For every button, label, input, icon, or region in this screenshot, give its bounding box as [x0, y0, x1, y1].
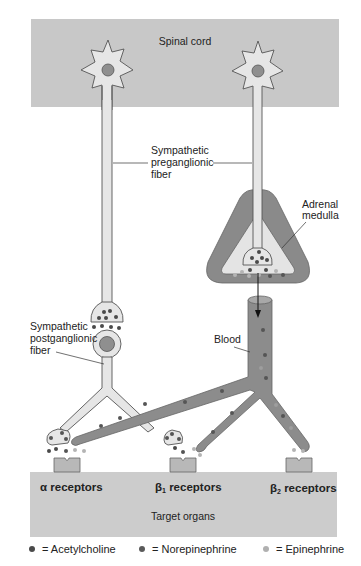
legend-acetylcholine-label: = Acetylcholine	[42, 543, 116, 555]
acetylcholine-dot-icon	[29, 546, 35, 552]
postganglionic-nucleus	[100, 337, 115, 352]
alpha-released-transmitters	[47, 447, 86, 453]
alpha-receptor-shape	[54, 458, 80, 472]
alpha-receptors-label: α receptors	[40, 481, 103, 493]
ganglion-released-ach	[92, 324, 121, 330]
legend: = Acetylcholine = Norepinephrine = Epine…	[0, 543, 361, 561]
left-soma-nucleus	[102, 64, 114, 76]
legend-acetylcholine: = Acetylcholine	[29, 543, 116, 555]
legend-epinephrine: = Epinephrine	[263, 543, 344, 555]
beta2-receptor-shape	[286, 458, 312, 472]
legend-epinephrine-label: = Epinephrine	[276, 543, 344, 555]
beta1-receptors-label: β1 receptors	[155, 481, 222, 494]
norepinephrine-dot-icon	[139, 546, 145, 552]
legend-norepinephrine: = Norepinephrine	[139, 543, 237, 555]
beta2-receptors-label: β2 receptors	[270, 482, 337, 495]
spinal-cord-region	[31, 19, 339, 107]
blood-label: Blood	[214, 333, 241, 345]
beta1-receptor-shape	[170, 458, 196, 472]
postganglionic-fiber-label: Sympathetic postganglionic fiber	[30, 320, 100, 356]
right-soma-nucleus	[252, 65, 264, 77]
target-organs-label: Target organs	[151, 510, 215, 522]
preganglionic-fiber-label: Sympathetic preganglionic fiber	[151, 144, 216, 180]
spinal-cord-label: Spinal cord	[159, 35, 212, 47]
legend-norepinephrine-label: = Norepinephrine	[152, 543, 237, 555]
sympathetic-nervous-system-diagram: Spinal cord Target organs	[0, 0, 361, 566]
epinephrine-dot-icon	[263, 546, 269, 552]
adrenal-medulla-label: Adrenal medulla	[302, 198, 341, 221]
